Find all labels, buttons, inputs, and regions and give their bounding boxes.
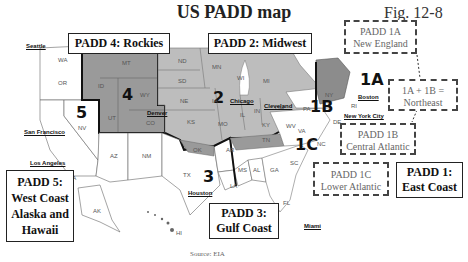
- padd1a-label-line1: PADD 1A: [346, 26, 415, 38]
- svg-text:MS: MS: [238, 167, 247, 173]
- padd1-label-line2: East Coast: [397, 180, 462, 195]
- svg-text:KS: KS: [187, 119, 195, 125]
- svg-text:TN: TN: [262, 137, 270, 143]
- svg-text:WI: WI: [237, 75, 245, 81]
- padd5-label-line3: Alaska and: [7, 206, 73, 222]
- svg-text:OR: OR: [58, 80, 68, 86]
- padd5-label-line2: West Coast: [7, 190, 73, 206]
- svg-text:OK: OK: [193, 147, 202, 153]
- svg-text:CO: CO: [146, 120, 155, 126]
- svg-text:AZ: AZ: [110, 153, 118, 159]
- padd1c-label-line2: Lower Atlantic: [315, 181, 387, 193]
- padd1b-label-line1: PADD 1B: [342, 129, 414, 141]
- svg-text:NV: NV: [78, 125, 86, 131]
- padd1a-label-box: PADD 1A New England: [344, 20, 417, 54]
- svg-text:VA: VA: [298, 128, 306, 134]
- city-denver: Denver: [147, 110, 167, 116]
- svg-text:RI: RI: [351, 103, 357, 109]
- svg-text:SD: SD: [178, 78, 187, 84]
- padd1c-label-box: PADD 1C Lower Atlantic: [313, 162, 389, 196]
- padd4-label: PADD 4: Rockies: [75, 36, 163, 50]
- svg-text:FL: FL: [283, 200, 291, 206]
- svg-text:TX: TX: [183, 172, 191, 178]
- padd1-label-box: PADD 1: East Coast: [396, 162, 463, 198]
- svg-text:MT: MT: [122, 60, 131, 66]
- padd3-label-line2: Gulf Coast: [210, 221, 278, 236]
- svg-text:HI: HI: [176, 230, 182, 236]
- svg-text:IN: IN: [254, 108, 260, 114]
- svg-text:IA: IA: [212, 98, 218, 104]
- padd4-label-box: PADD 4: Rockies: [68, 33, 170, 54]
- source-credit: Source: EIA: [190, 250, 225, 258]
- padd1c-label-line1: PADD 1C: [315, 169, 387, 181]
- svg-text:LA: LA: [230, 183, 237, 189]
- svg-text:NM: NM: [142, 153, 151, 159]
- city-houston: Houston: [188, 190, 212, 196]
- svg-text:ID: ID: [98, 83, 105, 89]
- svg-text:NE: NE: [180, 98, 188, 104]
- city-los-angeles: Los Angeles: [30, 160, 65, 166]
- svg-text:ND: ND: [178, 58, 187, 64]
- svg-text:NY: NY: [325, 92, 333, 98]
- city-seattle: Seattle: [26, 43, 46, 49]
- padd5-label-box: PADD 5: West Coast Alaska and Hawaii: [6, 170, 74, 242]
- padd1a-label-line2: New England: [346, 38, 415, 50]
- svg-text:WY: WY: [140, 92, 150, 98]
- northeast-label-line1: 1A + 1B =: [390, 85, 456, 97]
- svg-text:UT: UT: [108, 115, 116, 121]
- city-san-francisco: San Francisco: [24, 129, 65, 135]
- svg-text:KY: KY: [262, 122, 270, 128]
- city-new-york: New York City: [344, 113, 384, 119]
- svg-text:PA: PA: [303, 106, 311, 112]
- padd1b-label-box: PADD 1B Central Atlantic: [340, 123, 416, 155]
- northeast-label-line2: Northeast: [390, 97, 456, 109]
- padd1b-label-line2: Central Atlantic: [342, 141, 414, 153]
- padd3-label-line1: PADD 3:: [210, 206, 278, 221]
- svg-text:IL: IL: [240, 112, 246, 118]
- city-chicago: Chicago: [230, 98, 254, 104]
- padd2-label-box: PADD 2: Midwest: [208, 33, 312, 54]
- svg-text:NC: NC: [317, 141, 326, 147]
- svg-text:AK: AK: [93, 208, 101, 214]
- svg-text:MN: MN: [212, 64, 221, 70]
- svg-text:WA: WA: [58, 57, 67, 63]
- padd5-label-line1: PADD 5:: [7, 174, 73, 190]
- svg-text:AL: AL: [253, 167, 261, 173]
- city-miami: Miami: [304, 223, 321, 229]
- svg-text:GA: GA: [270, 167, 279, 173]
- padd3-label-box: PADD 3: Gulf Coast: [209, 203, 279, 239]
- padd1-label-line1: PADD 1:: [397, 165, 462, 180]
- svg-text:MI: MI: [263, 78, 270, 84]
- northeast-label-box: 1A + 1B = Northeast: [388, 79, 458, 111]
- svg-text:SC: SC: [290, 160, 299, 166]
- svg-text:WV: WV: [286, 123, 296, 129]
- padd5-label-line4: Hawaii: [7, 222, 73, 238]
- city-boston: Boston: [358, 94, 379, 100]
- svg-text:AR: AR: [226, 147, 235, 153]
- svg-text:MO: MO: [218, 121, 228, 127]
- city-cleveland: Cleveland: [264, 103, 292, 109]
- padd2-label: PADD 2: Midwest: [214, 36, 306, 50]
